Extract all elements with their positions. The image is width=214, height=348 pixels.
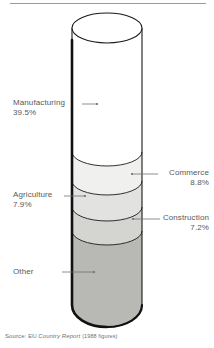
label-manufacturing-name: Manufacturing bbox=[13, 98, 65, 107]
source-prefix: Source: bbox=[5, 333, 26, 339]
label-manufacturing-pct: 39.5% bbox=[13, 108, 65, 118]
label-commerce-name: Commerce bbox=[169, 168, 209, 177]
label-construction-name: Construction bbox=[163, 213, 209, 222]
label-other-name: Other bbox=[13, 267, 34, 276]
source-year-note: (1988 figures) bbox=[82, 333, 117, 339]
label-other: Other bbox=[13, 267, 34, 277]
source-organization: EIU bbox=[28, 333, 36, 339]
label-manufacturing: Manufacturing 39.5% bbox=[13, 98, 65, 117]
segment-manufacturing bbox=[72, 28, 142, 166]
label-construction-pct: 7.2% bbox=[163, 223, 209, 233]
label-agriculture-pct: 7.9% bbox=[13, 200, 52, 210]
cylinder-top-ellipse bbox=[72, 13, 142, 43]
chart-figure: Manufacturing 39.5% Commerce 8.8% Agricu… bbox=[0, 0, 214, 348]
source-publication: Country Report bbox=[38, 333, 80, 339]
source-note: Source: EIU Country Report (1988 figures… bbox=[5, 333, 118, 339]
label-construction: Construction 7.2% bbox=[163, 213, 209, 232]
label-agriculture: Agriculture 7.9% bbox=[13, 190, 52, 209]
segment-other bbox=[70, 231, 144, 331]
label-commerce: Commerce 8.8% bbox=[169, 168, 209, 187]
label-agriculture-name: Agriculture bbox=[13, 190, 52, 199]
label-commerce-pct: 8.8% bbox=[169, 178, 209, 188]
